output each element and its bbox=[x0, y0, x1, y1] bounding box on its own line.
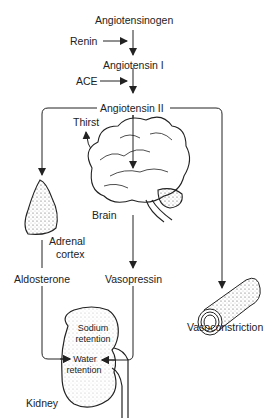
node-aldosterone: Aldosterone bbox=[14, 273, 70, 285]
node-sodium-retention-line2: retention bbox=[73, 334, 113, 344]
adrenal-gland-illustration bbox=[25, 180, 57, 234]
node-renin: Renin bbox=[70, 35, 97, 47]
node-vasoconstriction: Vasoconstriction bbox=[187, 321, 263, 333]
node-thirst: Thirst bbox=[73, 116, 99, 128]
node-water-retention-line1: Water bbox=[68, 354, 102, 364]
brain-illustration bbox=[88, 117, 189, 222]
node-brain: Brain bbox=[92, 209, 117, 221]
node-angiotensinogen: Angiotensinogen bbox=[95, 14, 173, 26]
diagram-canvas: Angiotensinogen Renin Angiotensin I ACE … bbox=[0, 0, 276, 418]
node-ace: ACE bbox=[76, 75, 98, 87]
node-water-retention-line2: retention bbox=[64, 365, 104, 375]
node-angiotensin-ii: Angiotensin II bbox=[100, 102, 164, 114]
node-sodium-retention-line1: Sodium bbox=[76, 323, 110, 333]
node-adrenal-cortex-line2: cortex bbox=[56, 248, 85, 260]
node-kidney: Kidney bbox=[26, 397, 58, 409]
node-vasopressin: Vasopressin bbox=[105, 273, 162, 285]
node-adrenal-cortex-line1: Adrenal bbox=[49, 235, 85, 247]
node-angiotensin-i: Angiotensin I bbox=[103, 59, 164, 71]
